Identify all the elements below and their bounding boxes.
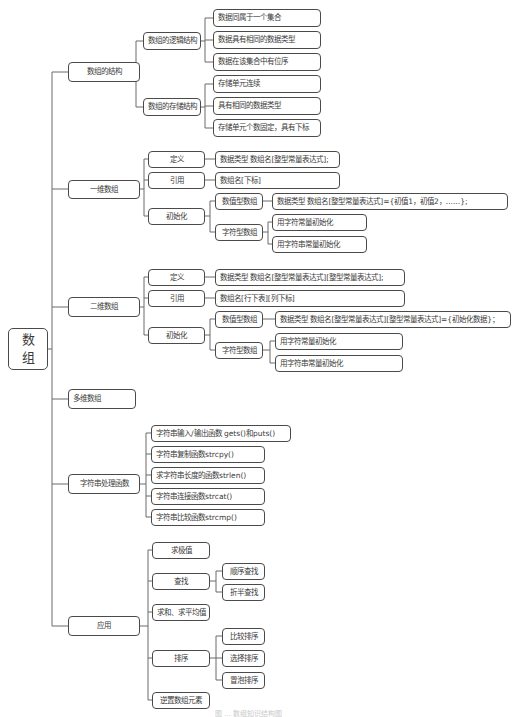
root-label-line2: 组 <box>22 349 35 367</box>
leaf-strcmp[interactable]: 字符串比较函数strcmp() <box>151 509 265 526</box>
leaf-logical-1[interactable]: 数据同属于一个集合 <box>213 9 321 27</box>
node-label: 求和、求平均值 <box>157 609 206 617</box>
node-label: 字符串输入/输出函数 gets()和puts() <box>156 430 275 438</box>
node-label: 数据类型 数组名[整型常量表达式]; <box>220 156 329 164</box>
leaf-logical-3[interactable]: 数据在该集合中有位序 <box>213 53 321 71</box>
leaf-storage-3[interactable]: 存储单元个数固定，具有下标 <box>213 119 321 137</box>
node-label: 用字符常量初始化 <box>280 338 336 346</box>
node-label: 初始化 <box>166 213 187 221</box>
node-label: 字符串复制函数strcpy() <box>156 451 234 459</box>
node-label: 用字符串常量初始化 <box>277 241 340 249</box>
leaf-comparison-sort[interactable]: 比较排序 <box>222 628 265 645</box>
leaf-sequential-search[interactable]: 顺序查找 <box>222 563 265 580</box>
figure-caption: 图 ... 数组知识结构图 <box>215 708 282 717</box>
node-1d-define[interactable]: 定义 <box>148 151 205 168</box>
node-label: 排序 <box>174 655 188 663</box>
node-2d-reference[interactable]: 引用 <box>148 290 205 307</box>
node-label: 字符串连接函数strcat() <box>156 493 232 501</box>
leaf-storage-1[interactable]: 存储单元连续 <box>213 75 321 93</box>
node-label: 定义 <box>170 274 184 282</box>
node-sort[interactable]: 排序 <box>152 650 210 667</box>
leaf-2d-char-init-1[interactable]: 用字符常量初始化 <box>275 333 403 350</box>
leaf-1d-numeric-init[interactable]: 数据类型 数组名[整型常量表达式]={初值1，初值2，......}; <box>272 193 508 210</box>
node-label: 折半查找 <box>230 589 258 597</box>
leaf-storage-2[interactable]: 具有相同的数据类型 <box>213 97 321 115</box>
node-label: 数组的结构 <box>87 68 122 76</box>
leaf-binary-search[interactable]: 折半查找 <box>222 584 265 601</box>
node-label: 数据在该集合中有位序 <box>218 58 288 66</box>
leaf-selection-sort[interactable]: 选择排序 <box>222 650 265 667</box>
node-label: 数值型数组 <box>222 316 257 324</box>
leaf-strlen[interactable]: 求字符串长度的函数strlen() <box>151 467 265 484</box>
node-label: 冒泡排序 <box>230 677 258 685</box>
node-label: 定义 <box>170 156 184 164</box>
root-label-line1: 数 <box>22 331 35 349</box>
node-label: 字符型数组 <box>222 347 257 355</box>
leaf-1d-define[interactable]: 数据类型 数组名[整型常量表达式]; <box>215 151 340 168</box>
node-1d-reference[interactable]: 引用 <box>148 172 205 189</box>
leaf-strcat[interactable]: 字符串连接函数strcat() <box>151 488 265 505</box>
node-2d-numeric-array[interactable]: 数值型数组 <box>215 311 263 328</box>
node-2d-init[interactable]: 初始化 <box>148 327 205 344</box>
node-sum-average[interactable]: 求和、求平均值 <box>152 604 210 621</box>
node-storage-structure[interactable]: 数组的存储结构 <box>143 98 201 116</box>
leaf-bubble-sort[interactable]: 冒泡排序 <box>222 672 265 689</box>
mind-map-canvas: 数 组 数组的结构 一维数组 二维数组 多维数组 字符串处理函数 应用 数组的逻… <box>0 0 519 717</box>
node-one-dim-array[interactable]: 一维数组 <box>68 180 140 199</box>
leaf-1d-reference[interactable]: 数组名[下标] <box>215 172 340 189</box>
node-two-dim-array[interactable]: 二维数组 <box>68 297 140 317</box>
node-label: 数组的存储结构 <box>148 103 197 111</box>
node-label: 数组的逻辑结构 <box>148 37 197 45</box>
leaf-string-io[interactable]: 字符串输入/输出函数 gets()和puts() <box>151 425 291 442</box>
node-label: 存储单元连续 <box>218 80 260 88</box>
node-label: 字符型数组 <box>222 229 257 237</box>
node-label: 用字符常量初始化 <box>277 219 333 227</box>
node-1d-init[interactable]: 初始化 <box>148 208 205 225</box>
node-label: 选择排序 <box>230 655 258 663</box>
node-label: 比较排序 <box>230 633 258 641</box>
node-logical-structure[interactable]: 数组的逻辑结构 <box>143 32 201 50</box>
node-label: 字符串处理函数 <box>80 480 129 488</box>
node-2d-char-array[interactable]: 字符型数组 <box>215 342 263 359</box>
node-label: 用字符串常量初始化 <box>280 360 343 368</box>
node-label: 数据同属于一个集合 <box>218 14 281 22</box>
node-label: 数值型数组 <box>222 198 257 206</box>
node-2d-define[interactable]: 定义 <box>148 269 205 286</box>
node-label: 顺序查找 <box>230 568 258 576</box>
leaf-logical-2[interactable]: 数据具有相同的数据类型 <box>213 31 321 49</box>
node-1d-char-array[interactable]: 字符型数组 <box>215 224 263 241</box>
leaf-2d-reference[interactable]: 数组名[行下表][列下标] <box>215 290 405 307</box>
node-multi-dim-array[interactable]: 多维数组 <box>68 389 136 409</box>
node-label: 具有相同的数据类型 <box>218 102 281 110</box>
node-1d-numeric-array[interactable]: 数值型数组 <box>215 193 263 210</box>
leaf-2d-numeric-init[interactable]: 数据类型 数组名[整型常量表达式][整型常量表达式]={初始化数据}； <box>275 311 511 328</box>
node-application[interactable]: 应用 <box>68 616 140 636</box>
leaf-2d-define[interactable]: 数据类型 数组名[整型常量表达式][整型常量表达式]; <box>215 269 405 286</box>
leaf-strcpy[interactable]: 字符串复制函数strcpy() <box>151 446 265 463</box>
node-find-extreme[interactable]: 求极值 <box>152 542 210 559</box>
root-node-array[interactable]: 数 组 <box>8 328 48 370</box>
node-string-functions[interactable]: 字符串处理函数 <box>68 474 140 494</box>
node-label: 引用 <box>170 177 184 185</box>
node-label: 初始化 <box>166 332 187 340</box>
node-label: 求字符串长度的函数strlen() <box>156 472 246 480</box>
node-reverse-elements[interactable]: 逆置数组元素 <box>152 692 210 709</box>
node-label: 逆置数组元素 <box>160 697 202 705</box>
node-label: 数据类型 数组名[整型常量表达式][整型常量表达式]; <box>220 274 384 282</box>
leaf-1d-char-init-2[interactable]: 用字符串常量初始化 <box>272 236 367 253</box>
node-label: 数据类型 数组名[整型常量表达式][整型常量表达式]={初始化数据}； <box>280 316 499 324</box>
node-label: 二维数组 <box>90 303 118 311</box>
node-label: 存储单元个数固定，具有下标 <box>218 124 309 132</box>
node-label: 数组名[下标] <box>220 177 261 185</box>
leaf-1d-char-init-1[interactable]: 用字符常量初始化 <box>272 214 367 231</box>
node-label: 字符串比较函数strcmp() <box>156 514 237 522</box>
node-array-structure[interactable]: 数组的结构 <box>68 62 140 82</box>
node-label: 一维数组 <box>90 186 118 194</box>
node-search[interactable]: 查找 <box>152 573 210 590</box>
node-label: 数据类型 数组名[整型常量表达式]={初值1，初值2，......}; <box>277 198 467 206</box>
node-label: 查找 <box>174 578 188 586</box>
node-label: 数组名[行下表][列下标] <box>220 295 295 303</box>
node-label: 引用 <box>170 295 184 303</box>
node-label: 数据具有相同的数据类型 <box>218 36 295 44</box>
leaf-2d-char-init-2[interactable]: 用字符串常量初始化 <box>275 355 403 372</box>
